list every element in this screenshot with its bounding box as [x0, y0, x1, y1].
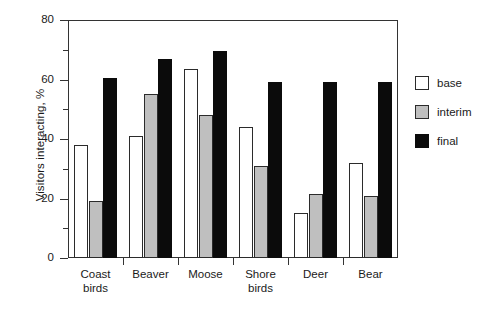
bar-base-beaver [129, 136, 143, 258]
bar-final-shore-birds [268, 82, 282, 258]
bar-base-coast-birds [74, 145, 88, 258]
legend-item-interim: interim [415, 101, 495, 122]
bar-interim-beaver [144, 94, 158, 258]
bar-base-shore-birds [239, 127, 253, 258]
bar-chart-figure: Visitors interacting, % 020406080 Coastb… [0, 0, 497, 311]
bar-interim-shore-birds [254, 166, 268, 258]
legend-label-base: base [437, 77, 462, 89]
x-category-label-line: Bear [326, 268, 416, 282]
legend-swatch-interim [415, 105, 429, 119]
legend-swatch-base [415, 76, 429, 90]
bar-base-bear [349, 163, 363, 258]
legend-item-base: base [415, 72, 495, 93]
bar-final-deer [323, 82, 337, 258]
bar-interim-coast-birds [89, 201, 103, 258]
legend-swatch-final [415, 134, 429, 148]
x-category-label-line: birds [51, 282, 141, 296]
bar-final-moose [213, 51, 227, 258]
bar-final-coast-birds [103, 78, 117, 258]
bar-final-bear [378, 82, 392, 258]
bar-base-deer [294, 213, 308, 258]
legend-label-final: final [437, 135, 458, 147]
bar-base-moose [184, 69, 198, 258]
bar-final-beaver [158, 59, 172, 258]
bar-interim-bear [364, 196, 378, 258]
chart-legend: baseinterimfinal [415, 72, 495, 159]
legend-label-interim: interim [437, 106, 472, 118]
x-category-bear: Bear [326, 268, 416, 282]
bar-interim-deer [309, 194, 323, 258]
x-category-label-line: birds [216, 282, 306, 296]
legend-item-final: final [415, 130, 495, 151]
bar-interim-moose [199, 115, 213, 258]
